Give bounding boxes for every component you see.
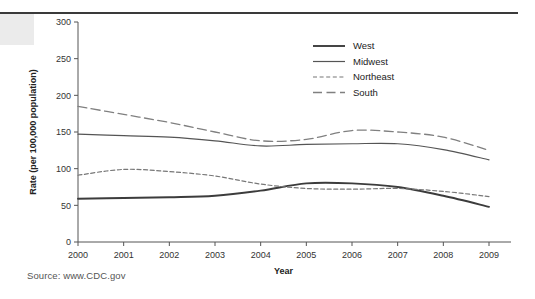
svg-text:2001: 2001 bbox=[114, 250, 134, 260]
legend-label-west: West bbox=[353, 40, 375, 51]
svg-text:2002: 2002 bbox=[159, 250, 179, 260]
svg-text:300: 300 bbox=[56, 17, 71, 27]
svg-text:0: 0 bbox=[66, 237, 71, 247]
chart-series bbox=[78, 106, 489, 206]
svg-text:250: 250 bbox=[56, 54, 71, 64]
svg-text:2003: 2003 bbox=[205, 250, 225, 260]
legend-label-midwest: Midwest bbox=[353, 56, 388, 67]
legend-label-south: South bbox=[353, 87, 378, 98]
svg-text:Year: Year bbox=[274, 266, 294, 276]
svg-text:100: 100 bbox=[56, 164, 71, 174]
chart-axes bbox=[74, 22, 511, 246]
series-line-south bbox=[78, 106, 489, 150]
line-chart-plot: 0501001502002503002000200120022003200420… bbox=[0, 0, 535, 299]
chart-figure: 0501001502002503002000200120022003200420… bbox=[0, 0, 535, 299]
svg-text:2006: 2006 bbox=[342, 250, 362, 260]
svg-text:2009: 2009 bbox=[479, 250, 499, 260]
svg-text:2007: 2007 bbox=[388, 250, 408, 260]
series-line-midwest bbox=[78, 134, 489, 160]
svg-text:Rate (per 100,000 population): Rate (per 100,000 population) bbox=[28, 69, 38, 195]
chart-legend: WestMidwestNortheastSouth bbox=[313, 40, 395, 98]
svg-text:2008: 2008 bbox=[433, 250, 453, 260]
svg-text:150: 150 bbox=[56, 127, 71, 137]
svg-text:2004: 2004 bbox=[251, 250, 271, 260]
source-note: Source: www.CDC.gov bbox=[27, 270, 126, 281]
legend-label-northeast: Northeast bbox=[353, 71, 395, 82]
svg-text:50: 50 bbox=[61, 201, 71, 211]
svg-text:200: 200 bbox=[56, 91, 71, 101]
svg-text:2005: 2005 bbox=[296, 250, 316, 260]
svg-text:2000: 2000 bbox=[68, 250, 88, 260]
